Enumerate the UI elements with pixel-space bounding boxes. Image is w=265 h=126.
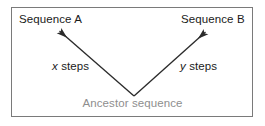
branch-label-right: y steps	[180, 60, 217, 72]
ancestor-sequence-diagram: Sequence A Sequence B x steps y steps An…	[0, 0, 265, 126]
branch-variable-y: y	[180, 60, 186, 72]
node-label-sequence-a: Sequence A	[19, 13, 82, 25]
branch-variable-x: x	[52, 60, 58, 72]
branch-label-left: x steps	[52, 60, 89, 72]
node-label-sequence-b: Sequence B	[181, 13, 245, 25]
node-label-ancestor-sequence: Ancestor sequence	[0, 97, 265, 109]
branch-unit-right: steps	[189, 60, 217, 72]
branch-unit-left: steps	[61, 60, 89, 72]
